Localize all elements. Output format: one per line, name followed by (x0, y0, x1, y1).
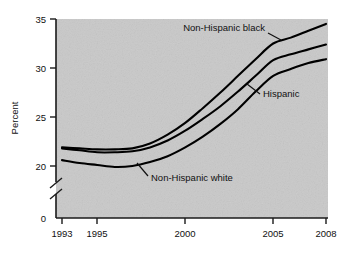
series-label-non-hispanic-black: Non-Hispanic black (183, 22, 265, 33)
x-tick-label-2000: 2000 (174, 228, 195, 239)
y-tick-label-25: 25 (35, 112, 46, 123)
y-tick-label-20: 20 (35, 161, 46, 172)
chart-figure: 35 30 25 20 0 Percent 1993 1995 2000 200… (0, 0, 343, 254)
x-tick-label-1995: 1995 (86, 228, 107, 239)
series-label-non-hispanic-white: Non-Hispanic white (151, 172, 233, 183)
y-tick-label-0: 0 (41, 213, 46, 224)
y-tick-label-35: 35 (35, 14, 46, 25)
x-tick-label-2008: 2008 (315, 228, 336, 239)
x-tick-label-1993: 1993 (51, 228, 72, 239)
y-axis-title: Percent (9, 101, 20, 134)
line-chart-svg: 35 30 25 20 0 Percent 1993 1995 2000 200… (0, 0, 343, 254)
x-tick-label-2005: 2005 (262, 228, 283, 239)
series-label-hispanic: Hispanic (263, 88, 300, 99)
y-tick-label-30: 30 (35, 63, 46, 74)
